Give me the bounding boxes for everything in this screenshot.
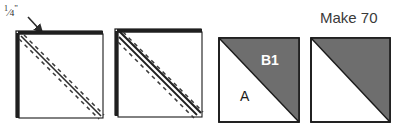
stitched-square [115, 29, 203, 118]
pressed-unit-plain [311, 38, 390, 122]
marked-square [16, 31, 104, 119]
make-count-label: Make 70 [320, 9, 378, 26]
seam-allowance-arrow [28, 17, 40, 30]
patch-label-b1: B1 [261, 52, 279, 68]
patch-label-a: A [240, 88, 249, 104]
seam-allowance-unit: " [14, 3, 18, 13]
pressed-unit-labeled [219, 38, 299, 122]
seam-allowance-label: 1⁄4" [4, 4, 18, 18]
